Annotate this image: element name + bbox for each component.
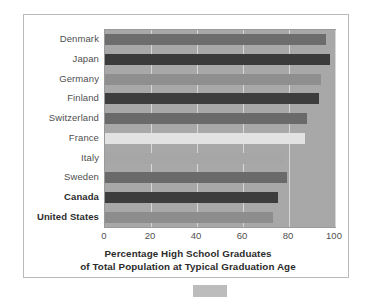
x-axis-tick-labels: 020406080100 (104, 230, 336, 246)
y-axis-label: United States (37, 211, 99, 222)
bar-fill (105, 74, 321, 85)
bar (105, 34, 326, 45)
bar (105, 113, 307, 124)
y-axis-label: Germany (59, 73, 99, 84)
x-axis-tick-label: 40 (191, 230, 202, 242)
y-axis-label: Italy (81, 152, 99, 163)
axis-title-line-2: of Total Population at Typical Graduatio… (34, 261, 342, 274)
y-axis-label: Sweden (64, 171, 99, 182)
bar-fill (105, 153, 284, 164)
bar (105, 54, 330, 65)
bar-fill (105, 192, 278, 203)
bar (105, 172, 287, 183)
gridline-100 (335, 30, 336, 227)
bar-fill (105, 34, 326, 45)
x-axis-tick-label: 60 (237, 230, 248, 242)
x-axis-tick-label: 80 (283, 230, 294, 242)
bar-fill (105, 133, 305, 144)
page-artifact-swatch (193, 285, 227, 297)
bar-fill (105, 54, 330, 65)
x-axis-tick-label: 0 (101, 230, 106, 242)
bar-fill (105, 172, 287, 183)
y-axis-label: Finland (67, 92, 99, 103)
bar-fill (105, 93, 319, 104)
x-axis-tick-label: 100 (326, 230, 342, 242)
y-axis-label: Switzerland (49, 112, 99, 123)
bar-series (105, 30, 335, 227)
y-axis-label: Denmark (60, 33, 99, 44)
x-axis-tick-label: 20 (145, 230, 156, 242)
bar (105, 93, 319, 104)
y-axis-label: France (69, 132, 99, 143)
bar (105, 212, 273, 223)
y-axis-label: Japan (73, 53, 99, 64)
bar (105, 153, 284, 164)
plot-area (104, 29, 336, 228)
bar (105, 192, 278, 203)
bar (105, 74, 321, 85)
axis-title-line-1: Percentage High School Graduates (34, 248, 342, 261)
bar-fill (105, 212, 273, 223)
y-axis-category-labels: DenmarkJapanGermanyFinlandSwitzerlandFra… (24, 29, 102, 228)
bar (105, 133, 305, 144)
y-axis-label: Canada (64, 191, 99, 202)
bar-fill (105, 113, 307, 124)
x-axis-title: Percentage High School Graduates of Tota… (34, 248, 342, 273)
chart-frame: DenmarkJapanGermanyFinlandSwitzerlandFra… (23, 14, 349, 278)
